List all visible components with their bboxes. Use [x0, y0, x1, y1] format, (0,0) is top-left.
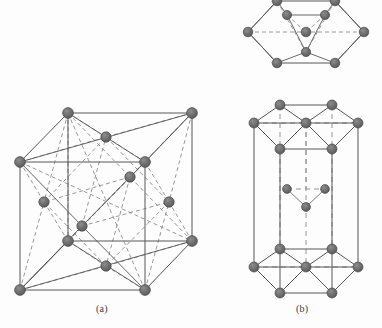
atom-hcp-top-back-left: [275, 100, 285, 110]
atom-hcp-top-left: [249, 118, 259, 128]
atom-hcp-top-back-right: [327, 100, 337, 110]
atom-corner-front-bottom-left: [15, 285, 26, 296]
atom-hex-top-inner-right: [320, 10, 329, 19]
atom-hex-top-inner-left: [282, 10, 291, 19]
atom-face-center-front: [77, 221, 87, 231]
atom-hcp-top-front-right: [327, 144, 337, 154]
atom-hcp-bottom-back-right: [327, 244, 337, 254]
atom-hcp-bottom-center: [301, 262, 311, 272]
atom-corner-front-top-right: [140, 157, 151, 168]
atom-hcp-bottom-back-left: [275, 244, 285, 254]
atom-face-center-top: [101, 132, 111, 142]
atom-hcp-bottom-front-right: [327, 288, 337, 298]
atom-hex-top-corner-lower-left: [272, 58, 282, 68]
atom-face-center-back: [125, 172, 135, 182]
atom-corner-front-top-left: [15, 157, 26, 168]
atom-corner-back-top-right: [187, 108, 198, 119]
figure-background: [0, 0, 382, 328]
atom-corner-back-bottom-left: [63, 236, 74, 247]
atom-face-center-right: [164, 197, 174, 207]
atom-hcp-mid-left: [283, 185, 292, 194]
atom-corner-front-bottom-right: [140, 285, 151, 296]
atom-hex-top-corner-lower-right: [330, 58, 340, 68]
crystal-structure-figure: [0, 0, 382, 328]
atom-hcp-top-center: [301, 118, 311, 128]
atom-face-center-bottom: [101, 261, 111, 271]
atom-hcp-bottom-left: [249, 262, 259, 272]
atom-hcp-top-front-left: [275, 144, 285, 154]
atom-hcp-mid-right: [321, 185, 330, 194]
atom-corner-back-top-left: [63, 108, 74, 119]
atom-hcp-mid-front: [302, 203, 311, 212]
atom-hex-top-corner-right: [359, 27, 369, 37]
atom-hcp-bottom-right: [353, 262, 363, 272]
panel-a-caption: (a): [96, 303, 108, 314]
atom-corner-back-bottom-right: [187, 236, 198, 247]
atom-face-center-left: [39, 197, 49, 207]
atom-hcp-top-right: [353, 118, 363, 128]
atom-hcp-bottom-front-left: [275, 288, 285, 298]
atom-hex-top-center: [301, 27, 311, 37]
atom-hex-top-corner-left: [243, 27, 253, 37]
panel-b-caption: (b): [296, 303, 308, 314]
atom-hex-top-inner-bottom: [301, 47, 310, 56]
